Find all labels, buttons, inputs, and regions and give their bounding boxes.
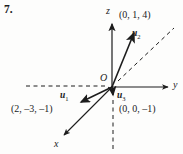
z-axis-label: z [106, 6, 110, 16]
vector-u2-subscript: 2 [137, 33, 140, 40]
vector-diagram-figure: 7. z y x O (0, 1, 4) (0, 0, –1) (2, –3, … [0, 0, 183, 154]
coordinate-label-u3: (0, 0, –1) [119, 104, 156, 114]
vector-u3-arrow [112, 86, 113, 95]
vector-u3-label: u3 [117, 91, 126, 102]
axes-and-vectors-svg [0, 0, 183, 154]
x-axis-label: x [54, 139, 58, 149]
vector-u2-arrow [112, 33, 134, 87]
coordinate-label-u1: (2, –3, –1) [11, 104, 53, 114]
vector-u1-arrow [81, 87, 112, 102]
vector-u1-label: u1 [60, 91, 69, 102]
origin-label: O [100, 73, 107, 83]
x-axis [64, 87, 112, 135]
vector-u3-subscript: 3 [122, 95, 125, 102]
x-axis-negative-dashed [118, 28, 174, 81]
problem-number: 7. [4, 4, 13, 16]
vector-u2-label: u2 [132, 29, 141, 40]
coordinate-label-u2: (0, 1, 4) [119, 10, 151, 20]
y-axis-label: y [173, 80, 177, 90]
vector-u1-subscript: 1 [65, 95, 68, 102]
